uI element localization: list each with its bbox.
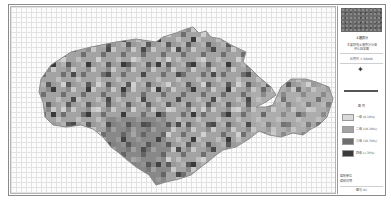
divider <box>340 63 383 64</box>
legend-heading: 图 例 <box>340 104 383 108</box>
legend-item: 三级 (30-70%) <box>342 138 382 145</box>
legend-item: 四级 (>70%) <box>342 150 382 157</box>
map-area <box>10 6 336 194</box>
scale-bar <box>344 90 378 92</box>
panel-subtitle-2: 评价结果图 <box>340 47 383 51</box>
location-thumbnail <box>341 8 382 32</box>
legend-swatch <box>342 114 354 121</box>
footer-bottom: 图号 01 <box>340 188 383 192</box>
legend-panel: 土壤养分 主要耕地土壤养分分级 评价结果图 比例尺 1:50000 ✦ 图 例 … <box>337 6 384 194</box>
footer-line-2: 编制日期 <box>340 179 383 183</box>
legend-item: 二级 (10-30%) <box>342 126 382 133</box>
scale-text: 比例尺 1:50000 <box>340 57 383 61</box>
legend-swatch <box>342 150 354 157</box>
legend-label: 一级 (0-10%) <box>356 115 375 120</box>
panel-title: 土壤养分 <box>340 36 383 40</box>
divider <box>340 186 383 187</box>
footer-line-1: 编制单位 <box>340 174 383 178</box>
north-arrow-icon: ✦ <box>357 66 364 74</box>
legend-swatch <box>342 126 354 133</box>
divider <box>340 53 383 54</box>
map-region-svg <box>11 7 336 194</box>
legend-swatch <box>342 138 354 145</box>
legend-label: 四级 (>70%) <box>356 151 374 156</box>
legend-item: 一级 (0-10%) <box>342 114 382 121</box>
legend-label: 二级 (10-30%) <box>356 127 377 132</box>
legend-label: 三级 (30-70%) <box>356 139 377 144</box>
